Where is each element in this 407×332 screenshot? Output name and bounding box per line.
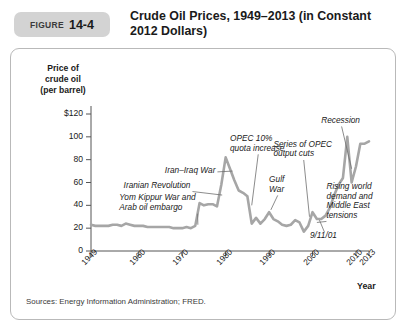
y-axis-title-line: (per barrel): [25, 85, 101, 96]
figure-sources: Sources: Energy Information Administrati…: [26, 297, 206, 306]
annotation-september-11: 9/11/01: [310, 231, 337, 241]
y-axis-title-line: Price of: [25, 63, 101, 74]
y-axis-tick-label: 40: [41, 199, 83, 209]
y-axis-title-line: crude oil: [25, 74, 101, 85]
y-axis-tick-label: 60: [41, 177, 83, 187]
chart-panel: Price ofcrude oil(per barrel) 0204060801…: [10, 48, 396, 320]
y-axis-title: Price ofcrude oil(per barrel): [25, 63, 101, 96]
annotation-yom-kippur: Yom Kippur War and Arab oil embargo: [119, 193, 195, 212]
y-axis-tick-label: 100: [41, 131, 83, 141]
annotation-rising-demand: Rising world demand and Middle East tens…: [326, 182, 372, 220]
annotation-leader-rising-demand: [317, 221, 327, 222]
figure-badge-number: 14-4: [69, 18, 94, 32]
annotation-leader-recession: [342, 126, 352, 168]
annotation-opec-output-cuts: Series of OPEC output cuts: [273, 140, 332, 159]
annotation-gulf-war: Gulf War: [269, 175, 284, 194]
y-axis-tick-label: 20: [41, 222, 83, 232]
annotation-iran-iraq-war: Iran–Iraq War: [165, 166, 216, 176]
annotation-recession: Recession: [321, 116, 360, 126]
figure-title: Crude Oil Prices, 1949–2013 (in Constant…: [130, 9, 398, 38]
figure-badge-label: FIGURE: [30, 20, 64, 30]
y-axis-tick-label: $120: [41, 108, 83, 118]
annotation-leader-iranian-revolution: [192, 192, 222, 196]
figure-header: FIGURE 14-4 Crude Oil Prices, 1949–2013 …: [0, 0, 407, 50]
annotation-leader-opec-output-cuts: [304, 160, 310, 217]
x-axis-title: Year: [357, 281, 376, 291]
annotation-iranian-revolution: Iranian Revolution: [124, 181, 191, 191]
figure-badge: FIGURE 14-4: [14, 12, 110, 37]
annotation-leader-opec-quota: [252, 154, 259, 205]
annotation-leader-gulf-war: [271, 195, 278, 210]
y-axis-tick-label: 0: [41, 245, 83, 255]
figure-container: FIGURE 14-4 Crude Oil Prices, 1949–2013 …: [0, 0, 407, 332]
y-axis-tick-label: 80: [41, 154, 83, 164]
